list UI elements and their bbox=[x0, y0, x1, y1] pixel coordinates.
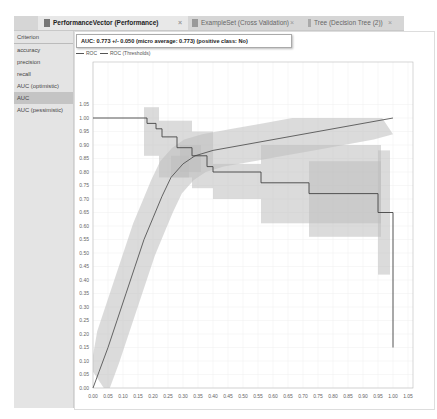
svg-text:0.80: 0.80 bbox=[79, 169, 89, 175]
svg-text:0.05: 0.05 bbox=[79, 371, 89, 377]
svg-text:0.90: 0.90 bbox=[79, 142, 89, 148]
svg-text:0.35: 0.35 bbox=[79, 290, 89, 296]
svg-text:0.25: 0.25 bbox=[79, 317, 89, 323]
svg-text:0.80: 0.80 bbox=[328, 393, 338, 399]
svg-text:0.30: 0.30 bbox=[79, 304, 89, 310]
svg-text:0.10: 0.10 bbox=[118, 393, 128, 399]
svg-text:0.45: 0.45 bbox=[79, 263, 89, 269]
svg-text:0.75: 0.75 bbox=[313, 393, 323, 399]
svg-text:0.00: 0.00 bbox=[88, 393, 98, 399]
svg-text:0.50: 0.50 bbox=[238, 393, 248, 399]
svg-text:0.10: 0.10 bbox=[79, 358, 89, 364]
svg-text:0.35: 0.35 bbox=[193, 393, 203, 399]
svg-text:1.00: 1.00 bbox=[79, 115, 89, 121]
svg-text:0.15: 0.15 bbox=[79, 344, 89, 350]
svg-text:0.20: 0.20 bbox=[148, 393, 158, 399]
y-axis-ticks: 0.000.050.100.150.200.250.300.350.400.45… bbox=[79, 101, 89, 391]
svg-text:0.50: 0.50 bbox=[79, 250, 89, 256]
svg-text:0.45: 0.45 bbox=[223, 393, 233, 399]
svg-text:0.25: 0.25 bbox=[163, 393, 173, 399]
svg-text:0.55: 0.55 bbox=[79, 236, 89, 242]
svg-text:0.40: 0.40 bbox=[208, 393, 218, 399]
svg-text:0.55: 0.55 bbox=[253, 393, 263, 399]
roc-chart: 0.000.050.100.150.200.250.300.350.400.45… bbox=[0, 0, 437, 419]
svg-text:0.30: 0.30 bbox=[178, 393, 188, 399]
svg-text:0.65: 0.65 bbox=[79, 209, 89, 215]
svg-text:0.70: 0.70 bbox=[298, 393, 308, 399]
x-axis-ticks: 0.000.050.100.150.200.250.300.350.400.45… bbox=[88, 393, 413, 399]
svg-text:0.70: 0.70 bbox=[79, 196, 89, 202]
svg-text:0.20: 0.20 bbox=[79, 331, 89, 337]
svg-text:0.00: 0.00 bbox=[79, 385, 89, 391]
svg-text:0.60: 0.60 bbox=[79, 223, 89, 229]
svg-text:0.15: 0.15 bbox=[133, 393, 143, 399]
svg-text:1.05: 1.05 bbox=[79, 101, 89, 107]
svg-text:1.05: 1.05 bbox=[403, 393, 413, 399]
svg-text:0.60: 0.60 bbox=[268, 393, 278, 399]
svg-text:0.85: 0.85 bbox=[79, 155, 89, 161]
svg-text:0.65: 0.65 bbox=[283, 393, 293, 399]
svg-text:0.75: 0.75 bbox=[79, 182, 89, 188]
svg-text:0.05: 0.05 bbox=[103, 393, 113, 399]
svg-text:0.90: 0.90 bbox=[358, 393, 368, 399]
svg-text:0.95: 0.95 bbox=[373, 393, 383, 399]
svg-text:0.40: 0.40 bbox=[79, 277, 89, 283]
svg-text:0.95: 0.95 bbox=[79, 128, 89, 134]
svg-text:0.85: 0.85 bbox=[343, 393, 353, 399]
svg-text:1.00: 1.00 bbox=[388, 393, 398, 399]
